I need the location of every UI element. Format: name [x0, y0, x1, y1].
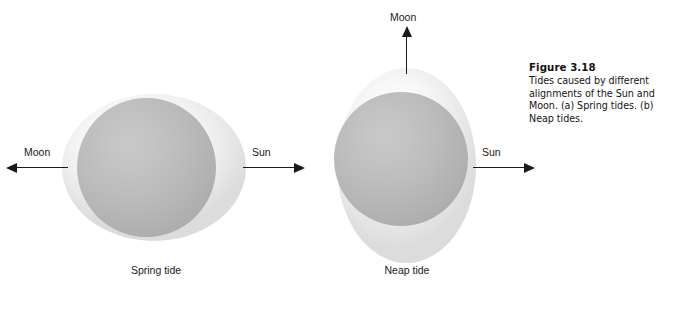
neap-tide-moon-label: Moon [390, 11, 416, 23]
neap-tide-sun-label: Sun [482, 146, 501, 158]
neap-tide-diagram: Moon Sun Neap tide [300, 0, 530, 309]
spring-tide-moon-label: Moon [24, 146, 50, 158]
spring-tide-sun-arrow [243, 162, 305, 174]
arrow-shaft [15, 167, 68, 168]
arrow-shaft [406, 35, 407, 74]
figure-caption-body: Tides caused by different alignments of … [529, 75, 681, 125]
spring-tide-sun-label: Sun [252, 146, 271, 158]
neap-tide-earth-sphere [334, 92, 468, 226]
neap-tide-caption-label: Neap tide [355, 264, 459, 277]
spring-tide-earth-sphere [77, 98, 216, 237]
figure-illustration: Moon Sun Spring tide Moon Sun Neap tide [0, 0, 684, 309]
spring-tide-moon-arrow [6, 162, 68, 174]
figure-caption: Figure 3.18 Tides caused by different al… [529, 61, 681, 125]
spring-tide-caption-label: Spring tide [104, 264, 208, 277]
figure-caption-title: Figure 3.18 [529, 61, 681, 74]
neap-tide-moon-arrow [401, 26, 413, 74]
arrow-shaft [473, 167, 526, 168]
arrowhead-right-icon [524, 163, 535, 173]
neap-tide-sun-arrow [473, 162, 535, 174]
arrow-shaft [243, 167, 296, 168]
spring-tide-diagram: Moon Sun Spring tide [0, 0, 300, 309]
